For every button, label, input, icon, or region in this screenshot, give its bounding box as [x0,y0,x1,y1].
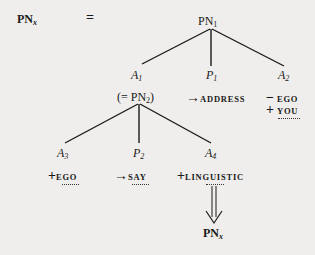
parse-tree-diagram: PNx = PN1 A1 P1 A2 (= PN2) →ADDRESS − EG… [0,0,315,255]
node-a1: A1 [131,69,142,85]
a2-word-ego: EGO [277,94,298,104]
node-a2: A2 [278,69,289,85]
a3-dotted-underline [62,184,79,185]
plus-icon: + [266,102,274,117]
right-arrow-icon: → [114,168,128,183]
edge-pn1-a1 [142,29,210,64]
p2-dotted-underline [132,184,149,185]
node-p2: P2 [133,147,144,163]
a1-value-pn2: (= PN2) [117,91,154,107]
a3-word: EGO [56,172,77,182]
lhs-pnx: PNx [17,13,37,29]
node-a2-sub: 2 [285,74,289,83]
node-p2-sub: 2 [140,152,144,161]
node-a1-sub: 1 [138,74,142,83]
node-a4-sub: 4 [212,152,216,161]
plus-icon: + [48,168,56,183]
node-p1: P1 [206,69,217,85]
result-base: PN [203,226,219,240]
a2-dotted-underline [278,118,300,119]
plus-icon: + [177,168,185,183]
edge-pn2-a4 [140,104,211,143]
double-arrow-head [206,211,222,223]
root-pn1: PN1 [198,15,217,31]
a4-dotted-underline [206,184,224,185]
equals-sign: = [86,12,94,24]
a1-base: PN [131,90,146,104]
node-a4: A4 [205,147,216,163]
p2-word: SAY [128,172,147,182]
node-a3-sub: 3 [64,152,68,161]
right-arrow-icon: → [186,90,200,105]
a3-value-plus-ego: +EGO [48,170,77,183]
lhs-sub: x [33,18,37,27]
result-sub: x [219,232,223,241]
a4-value-plus-linguistic: +LINGUISTIC [177,170,244,183]
p1-word: ADDRESS [200,94,245,104]
node-p1-sub: 1 [213,74,217,83]
lhs-base: PN [17,12,33,26]
a1-suffix: ) [150,90,154,104]
p2-value-say: →SAY [114,170,147,183]
a2-word-you: YOU [277,106,298,116]
root-sub: 1 [213,20,217,29]
result-pnx: PNx [203,227,223,243]
node-a3: A3 [57,147,68,163]
a1-prefix: (= [117,90,131,104]
edge-pn1-a2 [212,29,284,66]
root-base: PN [198,14,213,28]
edge-pn2-a3 [65,104,138,143]
tree-edges [0,0,315,255]
a4-word: LINGUISTIC [185,172,244,182]
p1-value-address: →ADDRESS [186,92,245,105]
a2-value-plus-you: + YOU [266,104,298,117]
